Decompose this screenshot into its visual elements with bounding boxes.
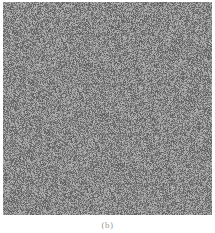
noise-image	[3, 2, 212, 215]
noise-canvas	[3, 2, 212, 215]
figure-caption: (b)	[0, 220, 215, 230]
